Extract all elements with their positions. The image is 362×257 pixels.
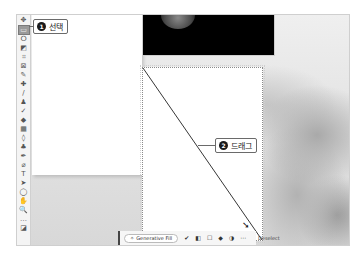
photo-subject [161, 15, 195, 29]
foreground-background-colors[interactable]: ◪ [18, 224, 30, 233]
callout-step-2: 2 드래그 [215, 138, 257, 153]
ellipse-tool[interactable]: ◯ [18, 188, 30, 197]
deselect-label: Deselect [258, 235, 280, 241]
pen-tool[interactable]: ✒ [18, 152, 30, 161]
invert-selection-icon[interactable]: ☐ [207, 234, 212, 242]
deselect-button[interactable]: Deselect [256, 231, 296, 245]
eyedropper-tool[interactable]: ✎ [18, 71, 30, 80]
sparkle-icon: ✧ [130, 235, 134, 241]
lasso-tool[interactable]: ⵔ [18, 35, 30, 44]
adjustment-icon[interactable]: ◑ [229, 234, 234, 242]
white-document-area [32, 15, 142, 175]
spot-healing-brush-tool[interactable]: ✚ [18, 80, 30, 89]
generative-fill-label: Generative Fill [136, 235, 172, 241]
dark-photo-layer [142, 15, 275, 56]
generative-fill-button[interactable]: ✧ Generative Fill [124, 234, 178, 243]
fill-icon[interactable]: ◆ [218, 234, 223, 242]
modify-selection-icon[interactable]: ✔ [184, 234, 189, 242]
zoom-tool[interactable]: 🔍 [18, 206, 30, 215]
gradient-tool[interactable]: ▦ [18, 125, 30, 134]
object-selection-tool[interactable]: ◩ [18, 44, 30, 53]
more-icon[interactable]: ⋯ [240, 234, 246, 242]
blur-tool[interactable]: ◊ [18, 134, 30, 143]
mouse-cursor-icon: ➘ [242, 220, 250, 230]
freeform-pen-tool[interactable]: ⌀ [18, 161, 30, 170]
path-selection-tool[interactable]: ➤ [18, 179, 30, 188]
more-tools-button[interactable]: … [18, 215, 30, 224]
callout-label: 드래그 [231, 140, 252, 151]
drag-path-line [143, 68, 262, 240]
callout-step-1: 1 선택 [33, 19, 68, 34]
clone-stamp-tool[interactable]: ♟ [18, 98, 30, 107]
move-tool[interactable]: ✥ [18, 16, 30, 25]
crop-tool[interactable]: ⌗ [18, 53, 30, 62]
callout-label: 선택 [49, 21, 63, 32]
brush-tool[interactable]: ∕ [18, 89, 30, 98]
step-number-badge: 2 [219, 141, 228, 150]
mask-icon[interactable]: ◧ [195, 234, 201, 242]
history-brush-tool[interactable]: ✓ [18, 107, 30, 116]
photoshop-workspace: ✥ ▭ ⵔ ◩ ⌗ ⊠ ✎ ✚ ∕ ♟ ✓ ◆ ▦ ◊ ♣ ✒ ⌀ T ➤ ◯ … [16, 14, 350, 246]
frame-tool[interactable]: ⊠ [18, 62, 30, 71]
eraser-tool[interactable]: ◆ [18, 116, 30, 125]
dodge-tool[interactable]: ♣ [18, 143, 30, 152]
contextual-task-bar: ✧ Generative Fill ✔ ◧ ☐ ◆ ◑ ⋯ [118, 231, 256, 245]
tools-panel: ✥ ▭ ⵔ ◩ ⌗ ⊠ ✎ ✚ ∕ ♟ ✓ ◆ ▦ ◊ ♣ ✒ ⌀ T ➤ ◯ … [17, 15, 31, 246]
step-number-badge: 1 [37, 22, 46, 31]
hand-tool[interactable]: ✋ [18, 197, 30, 206]
callout-2-connector [198, 145, 215, 146]
type-tool[interactable]: T [18, 170, 30, 179]
marquee-selection[interactable] [142, 67, 263, 241]
rectangular-marquee-tool[interactable]: ▭ [18, 25, 30, 35]
